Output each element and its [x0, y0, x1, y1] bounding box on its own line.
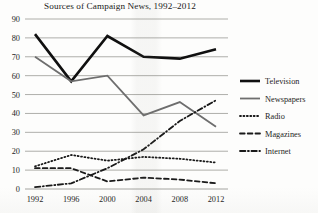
y-tick-20: 20: [12, 147, 20, 156]
chart-svg: 9080706050403020100 19921996200020042008…: [0, 0, 318, 213]
x-tick-2008: 2008: [172, 195, 189, 204]
x-tick-1996: 1996: [63, 195, 80, 204]
chart-legend: TelevisionNewspapersRadioMagazinesIntern…: [240, 77, 306, 156]
y-tick-40: 40: [12, 109, 20, 118]
x-tick-2004: 2004: [135, 195, 152, 204]
y-tick-60: 60: [12, 72, 20, 81]
y-tick-80: 80: [12, 34, 20, 43]
y-tick-0: 0: [16, 185, 20, 194]
y-tick-90: 90: [12, 15, 20, 24]
x-axis-tick-labels: 199219962000200420082012: [27, 195, 225, 204]
legend-label-television: Television: [265, 77, 300, 86]
series-line-radio: [35, 155, 216, 166]
legend-label-magazines: Magazines: [265, 130, 301, 139]
gridlines: [25, 19, 228, 189]
y-tick-70: 70: [12, 53, 20, 62]
x-tick-1992: 1992: [27, 195, 44, 204]
x-tick-2012: 2012: [208, 195, 225, 204]
plot-area: 9080706050403020100 19921996200020042008…: [0, 0, 318, 213]
legend-label-newspapers: Newspapers: [265, 95, 306, 104]
legend-label-radio: Radio: [265, 112, 285, 121]
y-axis-tick-labels: 9080706050403020100: [12, 15, 20, 194]
y-tick-30: 30: [12, 128, 20, 137]
x-tick-2000: 2000: [99, 195, 116, 204]
y-tick-50: 50: [12, 91, 20, 100]
legend-label-internet: Internet: [265, 147, 291, 156]
y-tick-10: 10: [12, 166, 20, 175]
